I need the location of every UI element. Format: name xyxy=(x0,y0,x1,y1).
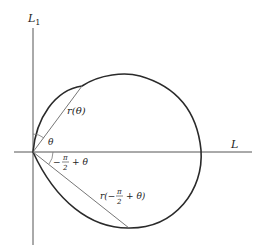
label-L1: L1 xyxy=(27,12,40,27)
svg-text:2: 2 xyxy=(116,198,122,206)
svg-text:2: 2 xyxy=(62,164,68,172)
label-theta: θ xyxy=(48,137,54,147)
svg-text:+ θ: + θ xyxy=(72,157,88,167)
svg-text:π: π xyxy=(62,154,68,162)
svg-text:−: − xyxy=(53,157,61,167)
diagram-canvas: L1 L r(θ) θ − π 2 + θ r(− π 2 + θ) xyxy=(0,0,263,251)
ray-r-theta xyxy=(33,86,82,152)
label-L: L xyxy=(230,138,238,151)
svg-text:r(−: r(− xyxy=(100,191,115,201)
svg-text:+ θ): + θ) xyxy=(126,191,146,201)
label-r-theta: r(θ) xyxy=(67,105,86,116)
svg-text:π: π xyxy=(116,188,122,196)
label-angle-minus-pi-half-plus-theta: − π 2 + θ xyxy=(53,154,88,172)
label-r-minus-pi-half-plus-theta: r(− π 2 + θ) xyxy=(100,188,146,206)
